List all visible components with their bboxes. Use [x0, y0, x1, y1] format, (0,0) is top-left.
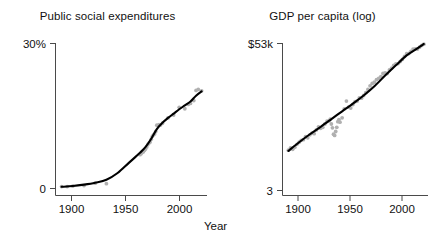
x-tick-label-2000-right: 2000 — [389, 203, 415, 215]
scatter-points-left — [60, 88, 204, 189]
scatter-point — [333, 134, 337, 138]
chart-panel-gdp-per-capita: GDP per capita (log) $53k 3 1900 1950 20… — [215, 0, 430, 249]
scatter-point — [334, 130, 338, 134]
axes-right — [277, 43, 428, 201]
x-tick-label-2000-left: 2000 — [167, 203, 193, 215]
x-axis-title: Year — [0, 220, 431, 232]
axes-left — [50, 43, 207, 201]
plot-area-left: 30% 0 1900 1950 2000 — [0, 0, 215, 249]
y-tick-label-bottom-right: 3 — [267, 185, 273, 197]
scatter-point — [331, 126, 335, 130]
x-tick-label-1950-left: 1950 — [113, 203, 139, 215]
y-tick-label-top-right: $53k — [248, 38, 273, 50]
y-tick-label-top-left: 30% — [23, 38, 46, 50]
figure-root: Public social expenditures 30% 0 1900 19… — [0, 0, 431, 249]
scatter-point — [196, 88, 200, 92]
x-tick-label-1900-left: 1900 — [59, 203, 85, 215]
x-tick-label-1950-right: 1950 — [337, 203, 363, 215]
scatter-point — [338, 120, 342, 124]
scatter-point — [345, 99, 349, 103]
y-tick-label-bottom-left: 0 — [40, 183, 46, 195]
chart-panel-social-expenditures: Public social expenditures 30% 0 1900 19… — [0, 0, 215, 249]
scatter-point — [340, 116, 344, 120]
fitted-trend-line-left — [62, 91, 202, 186]
scatter-point — [335, 125, 339, 129]
scatter-point — [105, 182, 109, 186]
scatter-point — [329, 122, 333, 126]
plot-area-right: $53k 3 1900 1950 2000 — [215, 0, 431, 249]
x-tick-label-1900-right: 1900 — [285, 203, 311, 215]
